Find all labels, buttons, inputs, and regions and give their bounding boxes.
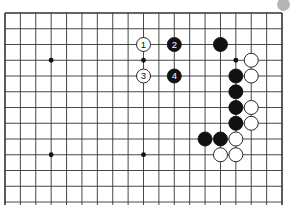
star-point bbox=[141, 152, 146, 157]
white-stone[interactable] bbox=[213, 148, 227, 162]
star-point bbox=[141, 58, 146, 63]
white-stone[interactable]: 3 bbox=[137, 69, 151, 83]
black-stone[interactable]: 4 bbox=[167, 69, 181, 83]
white-stone[interactable] bbox=[229, 148, 243, 162]
black-stone[interactable] bbox=[198, 132, 212, 146]
white-stone[interactable] bbox=[229, 132, 243, 146]
move-number: 3 bbox=[141, 70, 146, 81]
white-stone[interactable] bbox=[244, 116, 258, 130]
white-stone[interactable] bbox=[244, 53, 258, 67]
move-number: 1 bbox=[141, 39, 146, 50]
go-board[interactable]: 1234 bbox=[0, 0, 290, 215]
star-point bbox=[233, 58, 238, 63]
star-point bbox=[49, 58, 54, 63]
white-stone[interactable]: 1 bbox=[137, 38, 151, 52]
stones-layer[interactable]: 1234 bbox=[137, 38, 259, 162]
star-point bbox=[49, 152, 54, 157]
white-stone[interactable] bbox=[244, 101, 258, 115]
black-stone[interactable] bbox=[229, 69, 243, 83]
white-stone[interactable] bbox=[244, 69, 258, 83]
move-number: 2 bbox=[172, 39, 177, 50]
black-stone[interactable] bbox=[229, 85, 243, 99]
black-stone[interactable] bbox=[229, 116, 243, 130]
black-stone[interactable] bbox=[213, 132, 227, 146]
black-stone[interactable] bbox=[229, 101, 243, 115]
black-stone[interactable] bbox=[213, 38, 227, 52]
black-stone[interactable]: 2 bbox=[167, 38, 181, 52]
move-number: 4 bbox=[172, 70, 177, 81]
